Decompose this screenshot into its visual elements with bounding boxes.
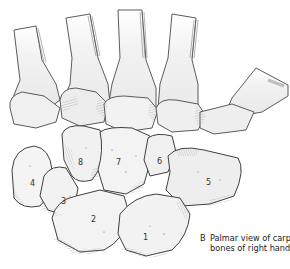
caption-text: Palmar view of carpal bones of right han… [210, 233, 290, 253]
label-2: 2 [91, 215, 96, 224]
label-3: 3 [61, 197, 66, 206]
carpal-bones-illustration: 1 2 3 4 5 6 7 8 [0, 0, 290, 269]
label-1: 1 [143, 233, 148, 242]
label-8: 8 [78, 158, 83, 167]
panel-letter: B [200, 233, 206, 243]
label-5: 5 [206, 178, 211, 187]
label-7: 7 [116, 158, 121, 167]
carpal-bones [12, 126, 242, 258]
label-4: 4 [30, 179, 35, 188]
caption-line-1: Palmar view of carpal [210, 233, 290, 243]
label-6: 6 [157, 157, 162, 166]
caption-line-2: bones of right hand [210, 243, 290, 253]
